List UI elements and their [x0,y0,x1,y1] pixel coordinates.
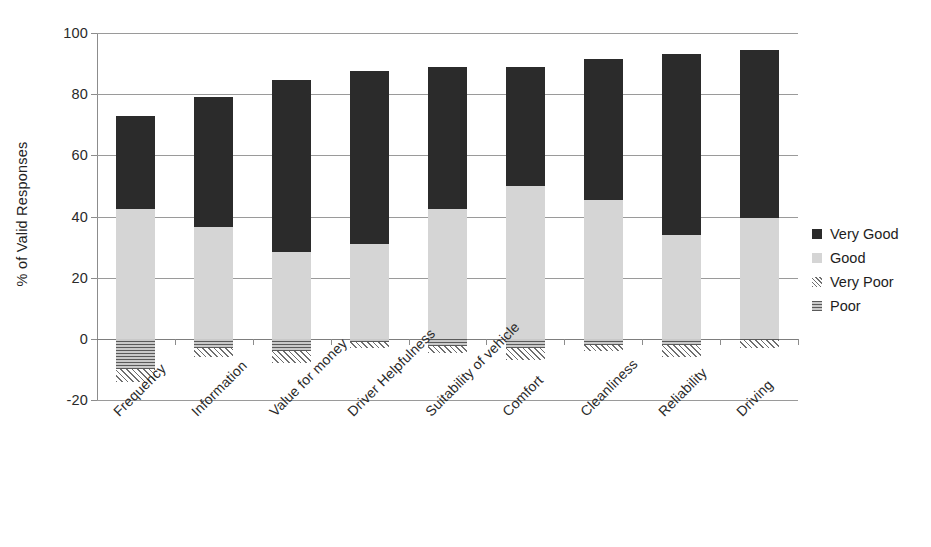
legend-item: Good [812,246,899,270]
y-tick-mark [91,33,97,34]
x-tick-mark [564,339,565,345]
legend-label: Very Good [830,227,899,242]
legend-swatch-icon [812,253,822,263]
bar-group [506,33,545,400]
legend-label: Very Poor [830,275,894,290]
bar-segment-good [506,186,545,339]
bar-segment-very-poor [194,348,233,357]
legend-label: Good [830,251,865,266]
bar-group [272,33,311,400]
y-tick-label: 20 [71,270,88,286]
y-tick-mark [91,400,97,401]
stacked-bar-chart: % of Valid Responses -20020406080100 Fre… [0,0,931,547]
bar-segment-very-good [662,54,701,234]
x-tick-mark [642,339,643,345]
bar-segment-good [584,200,623,339]
legend-item: Poor [812,294,899,318]
bar-segment-poor [272,339,311,351]
bar-segment-very-good [116,116,155,209]
y-tick-mark [91,278,97,279]
chart-legend: Very GoodGoodVery PoorPoor [812,222,899,318]
bar-segment-very-poor [740,340,779,348]
bar-group [428,33,467,400]
bar-segment-very-good [272,80,311,251]
x-tick-mark [175,339,176,345]
bar-segment-good [662,235,701,339]
legend-swatch-icon [812,301,822,311]
bar-segment-good [428,209,467,339]
bar-segment-poor [194,339,233,348]
bar-segment-very-poor [272,351,311,363]
bar-group [194,33,233,400]
bar-group [116,33,155,400]
bar-segment-very-poor [584,345,623,351]
bar-segment-very-poor [428,346,467,352]
bar-segment-very-good [350,71,389,244]
bar-segment-very-good [740,50,779,218]
y-tick-label: 80 [71,86,88,102]
legend-swatch-icon [812,277,822,287]
y-tick-label: 0 [80,331,88,347]
y-tick-label: 60 [71,147,88,163]
legend-item: Very Good [812,222,899,246]
bar-segment-very-poor [506,348,545,360]
bar-segment-very-poor [662,345,701,357]
bar-group [584,33,623,400]
y-axis-title: % of Valid Responses [14,142,30,287]
bar-segment-very-good [428,67,467,209]
bar-segment-very-good [194,97,233,227]
bar-group [350,33,389,400]
y-tick-label: -20 [66,392,88,408]
bar-segment-good [194,227,233,339]
plot-area: -20020406080100 [97,33,798,400]
bar-segment-good [272,252,311,339]
y-tick-label: 100 [63,25,88,41]
y-tick-mark [91,339,97,340]
bar-group [662,33,701,400]
legend-swatch-icon [812,229,822,239]
bar-segment-good [740,218,779,339]
y-tick-label: 40 [71,209,88,225]
bar-segment-very-good [584,59,623,200]
bar-group [740,33,779,400]
legend-item: Very Poor [812,270,899,294]
bar-segment-good [350,244,389,339]
bar-segment-very-good [506,67,545,186]
bar-segment-poor [116,339,155,370]
bar-segment-very-poor [350,342,389,348]
y-tick-mark [91,155,97,156]
bar-segment-good [116,209,155,339]
x-tick-mark [720,339,721,345]
legend-label: Poor [830,299,861,314]
x-tick-mark [253,339,254,345]
y-tick-mark [91,94,97,95]
x-tick-mark [798,339,799,345]
y-tick-mark [91,217,97,218]
